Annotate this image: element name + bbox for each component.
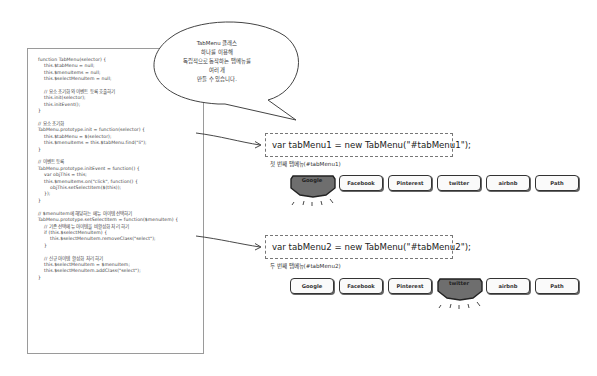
selected-highlight-rays-icon — [437, 297, 487, 311]
tab-label: twitter — [449, 280, 469, 286]
tab-label: Facebook — [347, 283, 375, 289]
tab-path[interactable]: Path — [535, 278, 579, 294]
tab-airbnb[interactable]: airbnb — [486, 175, 530, 191]
tab-label: airbnb — [499, 180, 518, 186]
tab-twitter[interactable]: twitter — [437, 278, 481, 294]
tab-facebook[interactable]: Facebook — [339, 278, 383, 294]
tab-pinterest[interactable]: Pinterest — [388, 175, 432, 191]
tab-label: Google — [302, 283, 322, 289]
tabmenu2-caption: 두 번째 탭메뉴(#tabMenu2) — [270, 262, 341, 270]
tab-label: Path — [550, 180, 563, 186]
tabmenu2-declaration: var tabMenu2 = new TabMenu("#tabMenu2"); — [265, 235, 453, 259]
tab-label: twitter — [449, 180, 469, 186]
tabmenu1-tab-bar: GoogleFacebookPinteresttwitterairbnbPath — [290, 175, 579, 191]
tab-google[interactable]: Google — [290, 175, 334, 191]
tab-label: Pinterest — [397, 180, 424, 186]
tab-label: Path — [550, 283, 563, 289]
tab-label: Google — [302, 177, 322, 183]
tab-label: airbnb — [499, 283, 518, 289]
tab-airbnb[interactable]: airbnb — [486, 278, 530, 294]
selected-highlight-rays-icon — [290, 194, 340, 208]
tab-twitter[interactable]: twitter — [437, 175, 481, 191]
tab-label: Facebook — [347, 180, 375, 186]
tabmenu1-caption: 첫 번째 탭메뉴(#tabMenu1) — [270, 160, 341, 168]
bubble-line: TabMenu 클래스 — [152, 39, 282, 48]
declaration-text: var tabMenu2 = new TabMenu("#tabMenu2"); — [272, 242, 471, 252]
bubble-line: 여러 개 — [152, 66, 282, 75]
tab-label: Pinterest — [397, 283, 424, 289]
tab-path[interactable]: Path — [535, 175, 579, 191]
speech-bubble-text: TabMenu 클래스 하나를 이용해 독립적으로 동작하는 탭메뉴를 여러 개… — [152, 39, 282, 84]
bubble-line: 하나를 이용해 — [152, 48, 282, 57]
tab-google[interactable]: Google — [290, 278, 334, 294]
tab-pinterest[interactable]: Pinterest — [388, 278, 432, 294]
declaration-text: var tabMenu1 = new TabMenu("#tabMenu1"); — [272, 140, 471, 150]
tab-facebook[interactable]: Facebook — [339, 175, 383, 191]
bubble-line: 만들 수 있습니다. — [152, 75, 282, 84]
tabmenu2-tab-bar: GoogleFacebookPinteresttwitterairbnbPath — [290, 278, 579, 294]
bubble-line: 독립적으로 동작하는 탭메뉴를 — [152, 57, 282, 66]
tabmenu1-declaration: var tabMenu1 = new TabMenu("#tabMenu1"); — [265, 133, 453, 157]
